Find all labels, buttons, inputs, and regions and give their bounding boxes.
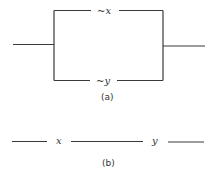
figure-a-parallel-circuit: ~x ~y (a) [13,5,205,102]
switch-label-y: y [151,135,158,146]
figure-b-series-circuit: x y (b) [12,135,204,168]
switching-circuits-diagram: ~x ~y (a) x y (b) [0,0,217,177]
switch-label-not-y: ~y [96,75,110,86]
switch-label-x: x [56,135,62,146]
switch-label-not-x: ~x [97,5,111,16]
caption-a: (a) [101,92,114,102]
caption-b: (b) [102,158,115,168]
